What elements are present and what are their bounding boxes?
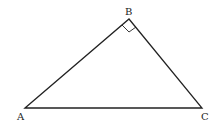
vertex-label-c: C [201, 111, 209, 122]
vertex-label-b: B [125, 6, 132, 17]
triangle-abc [25, 19, 202, 108]
right-angle-marker [122, 25, 136, 32]
vertex-label-a: A [16, 111, 25, 122]
triangle-diagram: B A C [0, 0, 220, 126]
